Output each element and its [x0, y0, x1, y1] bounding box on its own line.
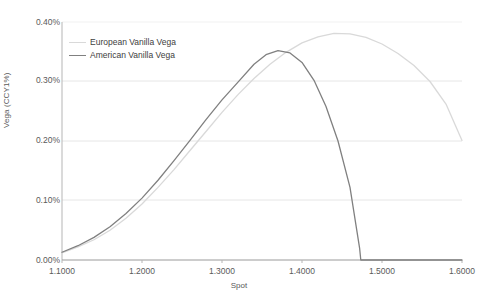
x-tick-label: 1.2000 [115, 266, 169, 276]
series-line-european-vanilla-vega [62, 33, 462, 253]
x-axis-title: Spot [0, 281, 478, 290]
legend-swatch-european [69, 42, 86, 43]
legend-item-american: American Vanilla Vega [69, 49, 176, 62]
data-series-group [62, 33, 462, 260]
x-tick-label: 1.5000 [355, 266, 409, 276]
series-line-american-vanilla-vega [62, 51, 462, 260]
chart-legend: European Vanilla Vega American Vanilla V… [69, 36, 176, 62]
x-tick-label: 1.6000 [435, 266, 478, 276]
legend-swatch-american [69, 55, 86, 56]
legend-label-american: American Vanilla Vega [90, 49, 175, 62]
x-tick-label: 1.3000 [195, 266, 249, 276]
legend-label-european: European Vanilla Vega [90, 36, 176, 49]
legend-item-european: European Vanilla Vega [69, 36, 176, 49]
x-tick-label: 1.4000 [275, 266, 329, 276]
x-tick-label: 1.1000 [35, 266, 89, 276]
vega-line-chart: Vega (CCY1%) 0.40% 0.30% 0.20% 0.10% 0.0… [0, 0, 478, 295]
